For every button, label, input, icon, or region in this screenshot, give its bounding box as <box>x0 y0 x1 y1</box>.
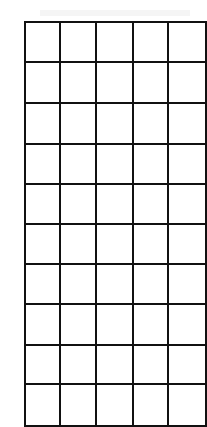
grid-cell <box>25 22 60 62</box>
grid-row <box>25 184 206 224</box>
grid-cell <box>25 144 60 184</box>
grid-cell <box>25 345 60 384</box>
grid-cell <box>96 62 133 103</box>
grid-cell <box>168 345 206 384</box>
grid-cell <box>168 264 206 304</box>
grid-cell <box>168 62 206 103</box>
grid-cell <box>25 264 60 304</box>
grid-cell <box>96 144 133 184</box>
grid-row <box>25 304 206 345</box>
grid-cell <box>96 224 133 264</box>
grid-cell <box>133 22 168 62</box>
grid-row <box>25 384 206 426</box>
grid-cell <box>133 264 168 304</box>
grid-cell <box>60 62 95 103</box>
grid-cell <box>25 103 60 144</box>
grid-cell <box>96 384 133 426</box>
grid-cell <box>60 184 95 224</box>
grid-cell <box>25 304 60 345</box>
grid-cell <box>96 345 133 384</box>
grid-row <box>25 224 206 264</box>
grid-cell <box>133 144 168 184</box>
grid-cell <box>168 224 206 264</box>
grid-cell <box>25 184 60 224</box>
grid-cell <box>96 264 133 304</box>
grid-row <box>25 264 206 304</box>
grid-cell <box>133 345 168 384</box>
grid-cell <box>168 103 206 144</box>
grid-cell <box>25 224 60 264</box>
grid-row <box>25 22 206 62</box>
grid-row <box>25 103 206 144</box>
grid-cell <box>168 184 206 224</box>
grid-cell <box>96 22 133 62</box>
grid-cell <box>25 62 60 103</box>
grid-cell <box>168 22 206 62</box>
grid-cell <box>60 384 95 426</box>
grid-cell <box>96 103 133 144</box>
grid-cell <box>60 264 95 304</box>
grid-cell <box>60 144 95 184</box>
grid-cell <box>25 384 60 426</box>
grid-cell <box>133 184 168 224</box>
grid-row <box>25 62 206 103</box>
bleed-through-marks <box>40 2 190 16</box>
grid-cell <box>133 103 168 144</box>
grid-cell <box>60 345 95 384</box>
grid-cell <box>133 384 168 426</box>
grid-cell <box>60 103 95 144</box>
grid-row <box>25 345 206 384</box>
grid-cell <box>168 304 206 345</box>
grid-cell <box>96 184 133 224</box>
grid-cell <box>60 22 95 62</box>
grid-cell <box>168 384 206 426</box>
grid-cell <box>60 224 95 264</box>
grid-cell <box>133 304 168 345</box>
grid-row <box>25 144 206 184</box>
grid-cell <box>60 304 95 345</box>
grid-cell <box>133 62 168 103</box>
grid-cell <box>168 144 206 184</box>
grid-cell <box>133 224 168 264</box>
empty-grid-table <box>24 21 207 427</box>
grid-cell <box>96 304 133 345</box>
